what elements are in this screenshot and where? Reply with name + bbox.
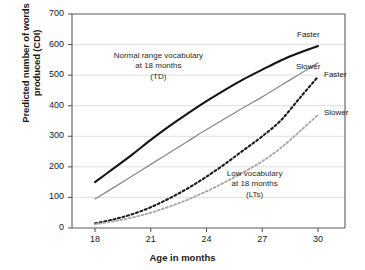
td-slower-label: Slower xyxy=(296,62,320,71)
y-tick-label-500: 500 xyxy=(30,69,64,79)
td-annotation: Normal range vocabularyat 18 months(TD) xyxy=(114,51,203,83)
td-annotation-line3: (TD) xyxy=(114,72,203,83)
lt-slower-label: Slower xyxy=(324,108,348,117)
lt-annotation: Low vocabularyat 18 months(LTs) xyxy=(227,169,283,201)
td-annotation-line1: Normal range vocabulary xyxy=(114,51,203,62)
x-tick-label-24: 24 xyxy=(192,234,222,244)
x-tick-label-18: 18 xyxy=(80,234,110,244)
series-curve-lt-faster xyxy=(95,77,318,224)
lt-annotation-line1: Low vocabulary xyxy=(227,169,283,180)
y-tick-label-200: 200 xyxy=(30,161,64,171)
series-curve-lt-slower xyxy=(95,115,318,224)
y-tick-label-400: 400 xyxy=(30,100,64,110)
y-tick-label-100: 100 xyxy=(30,191,64,201)
y-tick-label-0: 0 xyxy=(30,222,64,232)
lt-annotation-line2: at 18 months xyxy=(227,179,283,190)
x-tick-label-27: 27 xyxy=(247,234,277,244)
td-annotation-line2: at 18 months xyxy=(114,61,203,72)
y-tick-label-300: 300 xyxy=(30,130,64,140)
x-tick-marks xyxy=(95,228,318,232)
chart-figure: Predicted number of words produced (CDI)… xyxy=(0,0,365,270)
series-curve-td-slower xyxy=(95,63,318,199)
lt-annotation-line3: (LTs) xyxy=(227,190,283,201)
x-tick-label-21: 21 xyxy=(136,234,166,244)
y-tick-label-700: 700 xyxy=(30,8,64,18)
td-faster-label: Faster xyxy=(297,30,320,39)
axis-lines xyxy=(72,14,345,228)
y-tick-marks xyxy=(68,14,72,228)
x-axis-label: Age in months xyxy=(0,252,365,263)
y-tick-label-600: 600 xyxy=(30,39,64,49)
x-tick-label-30: 30 xyxy=(303,234,333,244)
lt-faster-label: Faster xyxy=(324,70,347,79)
